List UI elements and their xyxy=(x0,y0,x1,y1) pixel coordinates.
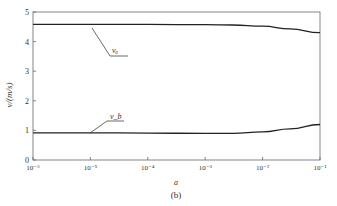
x-tick-label: 10⁻⁵ xyxy=(84,164,98,172)
y-tick-label: 5 xyxy=(25,8,29,17)
series-label-v_a: vₐ xyxy=(112,46,119,55)
line-chart: 012345 10⁻⁶10⁻⁵10⁻⁴10⁻³10⁻²10⁻¹ vₐv_b v/… xyxy=(0,0,337,206)
x-tick-label: 10⁻² xyxy=(256,164,269,172)
plot-frame xyxy=(33,12,320,160)
figure-caption: (b) xyxy=(171,190,182,200)
x-tick-label: 10⁻¹ xyxy=(313,164,326,172)
x-axis-ticks: 10⁻⁶10⁻⁵10⁻⁴10⁻³10⁻²10⁻¹ xyxy=(26,157,326,172)
series-line-v_a xyxy=(33,24,320,32)
x-tick-label: 10⁻⁴ xyxy=(141,164,155,172)
series-label-v_b: v_b xyxy=(110,112,122,121)
series-annotations: vₐv_b xyxy=(90,28,128,133)
x-tick-label: 10⁻⁶ xyxy=(26,164,40,172)
y-axis-ticks: 012345 xyxy=(25,8,36,165)
y-tick-label: 2 xyxy=(25,97,29,106)
x-tick-label: 10⁻³ xyxy=(199,164,212,172)
data-series xyxy=(33,24,320,133)
y-axis-label: v/(m/s) xyxy=(4,83,14,108)
y-tick-label: 3 xyxy=(25,67,29,76)
series-line-v_b xyxy=(33,125,320,134)
leader-line-v_a xyxy=(92,28,128,56)
y-tick-label: 1 xyxy=(25,126,29,135)
y-tick-label: 4 xyxy=(25,38,29,47)
x-axis-label: a xyxy=(174,178,178,187)
leader-line-v_b xyxy=(90,121,124,133)
plot-border xyxy=(33,12,320,160)
